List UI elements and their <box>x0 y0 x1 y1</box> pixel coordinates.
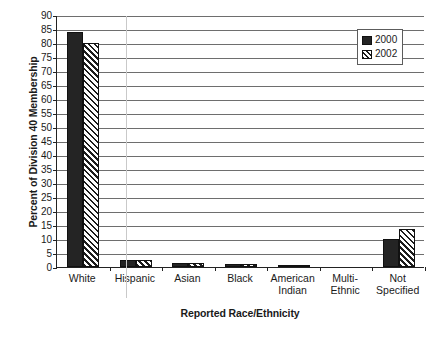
y-axis-tick-label: 40 <box>11 151 57 161</box>
x-axis-tick-labels: WhiteHispanicAsianBlackAmerican IndianMu… <box>56 272 424 306</box>
y-axis-tick-mark <box>53 268 57 269</box>
legend-label-2002: 2002 <box>375 49 397 59</box>
legend-item-2000: 2000 <box>362 33 397 47</box>
x-axis-label: Not Specified <box>371 272 424 296</box>
x-axis-label: White <box>56 272 109 284</box>
legend-swatch-2000 <box>362 36 372 45</box>
bar-not-specified-2000 <box>383 239 399 267</box>
y-axis-tick-label: 45 <box>11 137 57 147</box>
bar-hispanic-2002 <box>136 260 152 267</box>
y-axis-tick-label: 25 <box>11 193 57 203</box>
y-axis-tick-label: 35 <box>11 165 57 175</box>
x-axis-tick-mark <box>320 267 321 271</box>
y-axis-tick-label: 0 <box>11 263 57 273</box>
bar-black-2002 <box>241 264 257 267</box>
y-axis-tick-label: 60 <box>11 95 57 105</box>
legend-item-2002: 2002 <box>362 47 397 61</box>
bar-not-specified-2002 <box>399 229 415 267</box>
x-axis-tick-mark <box>110 267 111 271</box>
x-axis-label: Black <box>214 272 267 284</box>
bar-white-2002 <box>83 43 99 267</box>
y-axis-tick-label: 10 <box>11 235 57 245</box>
y-axis-tick-label: 5 <box>11 249 57 259</box>
y-axis-tick-label: 50 <box>11 123 57 133</box>
bar-asian-2002 <box>188 263 204 267</box>
x-axis-label: Multi- Ethnic <box>319 272 372 296</box>
y-axis-tick-label: 75 <box>11 53 57 63</box>
x-axis-tick-mark <box>162 267 163 271</box>
y-axis-tick-label: 70 <box>11 67 57 77</box>
scan-artifact-line <box>126 16 127 298</box>
bar-american-indian-2000 <box>278 265 294 267</box>
bar-black-2000 <box>225 264 241 267</box>
x-axis-title: Reported Race/Ethnicity <box>56 307 424 319</box>
y-axis-tick-label: 55 <box>11 109 57 119</box>
bar-white-2000 <box>67 32 83 267</box>
legend-swatch-2002 <box>362 50 372 59</box>
y-axis-tick-label: 15 <box>11 221 57 231</box>
bar-hispanic-2000 <box>120 260 136 267</box>
y-axis-tick-label: 20 <box>11 207 57 217</box>
x-axis-label: Asian <box>161 272 214 284</box>
legend-label-2000: 2000 <box>375 35 397 45</box>
y-axis-tick-label: 80 <box>11 39 57 49</box>
x-axis-tick-mark <box>425 267 426 271</box>
y-axis-tick-label: 85 <box>11 25 57 35</box>
y-axis-tick-label: 90 <box>11 11 57 21</box>
y-axis-tick-label: 30 <box>11 179 57 189</box>
bar-chart: Percent of Division 40 Membership 051015… <box>0 0 440 341</box>
y-axis-tick-label: 65 <box>11 81 57 91</box>
x-axis-tick-mark <box>372 267 373 271</box>
bar-asian-2000 <box>172 263 188 267</box>
x-axis-tick-mark <box>215 267 216 271</box>
x-axis-label: Hispanic <box>109 272 162 284</box>
legend: 20002002 <box>357 29 403 65</box>
x-axis-tick-mark <box>267 267 268 271</box>
bar-american-indian-2002 <box>294 265 310 267</box>
x-axis-label: American Indian <box>266 272 319 296</box>
